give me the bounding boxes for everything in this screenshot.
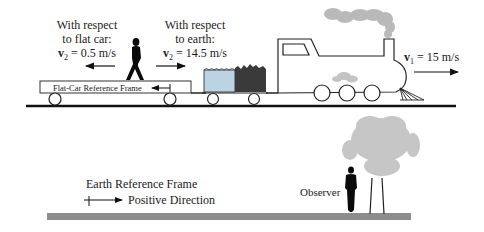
earth-frame-label: Earth Reference Frame [86,177,197,191]
loco-wheel [314,85,330,101]
earth-relative-label: With respect to earth: v2 = 14.5 m/s [148,18,242,65]
smoke-cloud [324,8,395,38]
loco-wheel [364,85,380,101]
ground-strip [47,213,411,220]
v-value: = 0.5 m/s [68,46,116,60]
label-line: to earth: [148,32,242,46]
tender-wheel [208,94,219,105]
water-tank [204,70,235,92]
cowcatcher [400,88,424,100]
tender-wheel [249,94,260,105]
observer-person-icon [345,166,357,212]
coal-load [235,64,266,92]
loco-wheel [339,85,355,101]
v-value: = 15 m/s [414,50,459,64]
flat-car-wheel [164,93,176,105]
label-line: to flat car: [40,32,134,46]
flat-car-wheel [49,93,61,105]
label-line: With respect [148,18,242,32]
label-line: With respect [40,18,134,32]
positive-direction-label: Positive Direction [128,193,215,207]
v-value: = 14.5 m/s [173,46,227,60]
tender-car [202,64,278,105]
velocity-v2-flatcar: v2 = 0.5 m/s [40,46,134,65]
flatcar-frame-label: Flat-Car Reference Frame [53,83,142,93]
observer-label: Observer [300,185,340,199]
velocity-v1-train: v1 = 15 m/s [404,50,459,69]
flatcar-relative-label: With respect to flat car: v2 = 0.5 m/s [40,18,134,65]
velocity-v2-earth: v2 = 14.5 m/s [148,46,242,65]
cab-window [283,44,309,55]
locomotive [278,39,424,101]
